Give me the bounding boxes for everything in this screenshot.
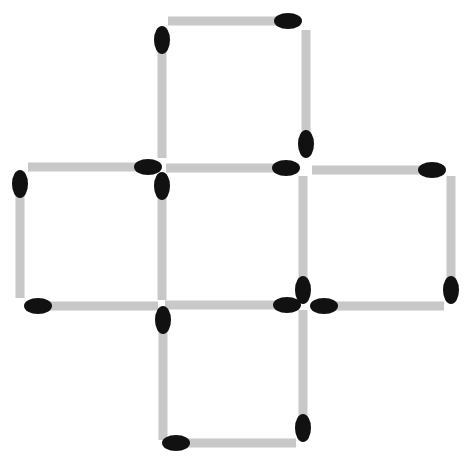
heads-layer: [12, 13, 459, 451]
match-head-icon: [273, 297, 301, 313]
match-head-icon: [272, 160, 300, 176]
match-head-icon: [154, 26, 170, 54]
matches-layer: [12, 13, 459, 451]
match-head-icon: [12, 170, 28, 198]
match-head-icon: [418, 162, 446, 178]
match-head-icon: [162, 435, 190, 451]
match-head-icon: [24, 298, 52, 314]
match-head-icon: [295, 414, 311, 442]
match-head-icon: [443, 276, 459, 304]
sticks-layer: [16, 17, 456, 448]
match-head-icon: [274, 13, 302, 29]
match-head-icon: [154, 172, 170, 200]
match-head-icon: [310, 298, 338, 314]
match-head-icon: [134, 159, 162, 175]
match-head-icon: [155, 306, 171, 334]
matchstick-puzzle: [0, 0, 467, 476]
match-head-icon: [298, 130, 314, 158]
